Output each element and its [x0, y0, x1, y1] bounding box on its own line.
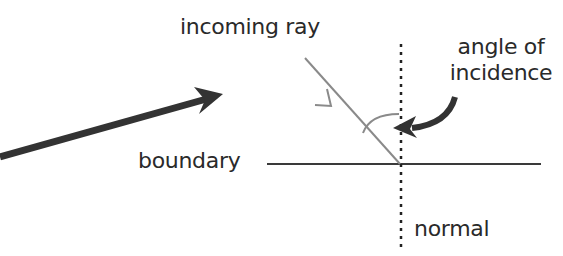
angle-of-incidence-label: angle of incidence: [426, 34, 563, 86]
angle-label-line1: angle of: [426, 34, 563, 60]
boundary-label: boundary: [138, 148, 240, 174]
angle-label-line2: incidence: [426, 60, 563, 86]
pointer-arrow-icon: [0, 87, 223, 157]
curved-arrow-icon: [393, 97, 455, 138]
incoming-ray-label: incoming ray: [180, 14, 320, 40]
ray-direction-arrowhead-icon: [315, 89, 331, 106]
normal-label: normal: [414, 216, 489, 242]
incoming-ray-line: [305, 58, 400, 164]
